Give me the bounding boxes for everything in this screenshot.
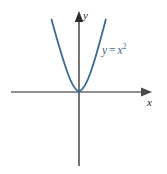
x-axis-label: x <box>147 97 152 108</box>
equation-variable: y <box>102 44 107 56</box>
parabola-figure: y x y=x2 <box>0 0 167 174</box>
y-axis-label: y <box>83 10 88 21</box>
curve-equation-label: y=x2 <box>102 45 126 57</box>
equation-exponent: 2 <box>123 42 127 51</box>
equation-operator: = <box>109 44 116 56</box>
graph-canvas <box>0 0 167 174</box>
y-axis-arrowhead <box>75 11 83 22</box>
